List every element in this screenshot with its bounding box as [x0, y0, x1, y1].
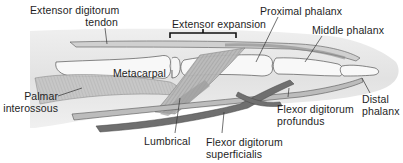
label-proximal-phalanx: Proximal phalanx [260, 5, 342, 17]
label-metacarpal: Metacarpal [113, 67, 166, 79]
label-line: Flexor digitorum [206, 136, 283, 148]
label-line: Extensor digitorum [30, 4, 118, 16]
label-line: tendon [30, 16, 118, 28]
label-line: phalanx [362, 105, 399, 117]
label-middle-phalanx: Middle phalanx [312, 24, 384, 36]
label-line: Middle phalanx [312, 24, 384, 36]
label-lumbrical: Lumbrical [144, 135, 190, 147]
label-distal-phalanx: Distal phalanx [362, 93, 399, 117]
label-line: interossous [2, 102, 58, 114]
label-extensor-expansion: Extensor expansion [172, 18, 266, 30]
label-line: profundus [277, 115, 354, 127]
label-flexor-digitorum-profundus: Flexor digitorum profundus [277, 103, 354, 127]
label-line: Palmar [2, 90, 58, 102]
label-palmar-interossous: Palmar interossous [2, 90, 58, 114]
label-flexor-digitorum-superficialis: Flexor digitorum superficialis [206, 136, 283, 160]
label-extensor-digitorum-tendon: Extensor digitorum tendon [30, 4, 118, 28]
label-line: Metacarpal [113, 67, 166, 79]
label-line: Extensor expansion [172, 18, 266, 30]
label-line: superficialis [206, 148, 283, 160]
label-line: Flexor digitorum [277, 103, 354, 115]
label-line: Proximal phalanx [260, 5, 342, 17]
label-line: Lumbrical [144, 135, 190, 147]
label-line: Distal [362, 93, 399, 105]
finger-anatomy-diagram: Extensor digitorum tendon Extensor expan… [0, 0, 403, 163]
